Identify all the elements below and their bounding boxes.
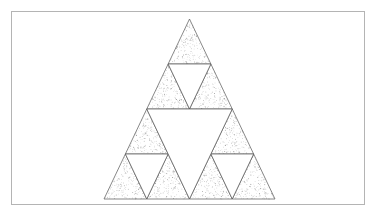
figure-canvas [0,0,377,217]
sierpinski-group [104,19,275,199]
sierpinski-triangle-figure [0,0,377,217]
